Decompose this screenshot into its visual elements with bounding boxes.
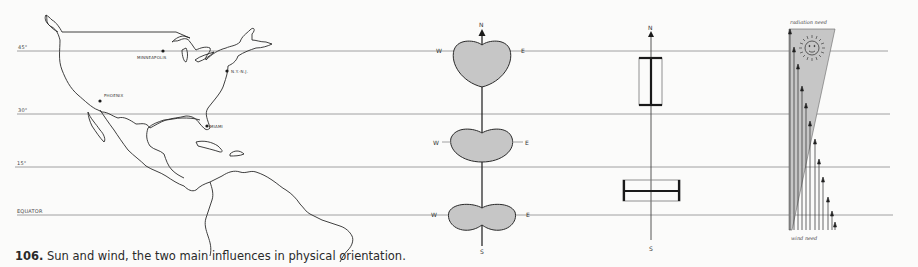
americas-map (45, 15, 353, 262)
radiation-need-label: radiation need (790, 19, 827, 25)
city-dot-ny-nj (225, 69, 228, 72)
city-dot-miami (205, 124, 208, 127)
east-label-equator: E (526, 211, 530, 218)
latitude-label-15: 15° (17, 160, 26, 166)
north-arrow-icon (479, 29, 486, 36)
figure-caption: 106. Sun and wind, the two main influenc… (15, 249, 406, 263)
building-south-label: S (649, 245, 653, 252)
building-north-label: N (648, 24, 653, 31)
city-label-minneapolis: MINNEAPOLIS (137, 55, 167, 60)
city-label-miami: MIAMI (210, 124, 223, 129)
north-label: N (479, 21, 484, 28)
building-form-diagram (623, 31, 680, 240)
west-label-45: W (436, 47, 442, 54)
figure-number: 106. (15, 249, 43, 263)
city-markers (98, 49, 228, 127)
building-north-arrow-icon (648, 31, 654, 37)
west-label-30: W (433, 139, 439, 146)
orientation-lobes-diagram (442, 29, 523, 246)
diagram-canvas (0, 0, 918, 267)
city-dot-phoenix (98, 99, 101, 102)
sun-wind-diagram (789, 29, 837, 230)
latitude-label-30: 30° (18, 107, 27, 113)
east-label-30: E (525, 139, 529, 146)
latitude-label-45: 45° (18, 44, 27, 50)
lobe-45 (453, 41, 511, 87)
lobe-30 (451, 129, 513, 162)
south-label: S (480, 248, 484, 255)
west-label-equator: W (431, 211, 437, 218)
city-dot-minneapolis (161, 49, 164, 52)
latitude-label-equator: EQUATOR (17, 208, 43, 214)
city-label-ny-nj: N.Y.-N.J. (231, 69, 248, 74)
wind-need-label: wind need (791, 235, 817, 241)
figure-caption-text: Sun and wind, the two main influences in… (47, 249, 406, 263)
east-label-45: E (521, 47, 525, 54)
city-label-phoenix: PHOENIX (104, 93, 123, 98)
